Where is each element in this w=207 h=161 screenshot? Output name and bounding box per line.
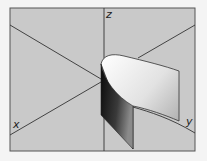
x-axis-label: x: [12, 118, 20, 131]
surface-diagram: z x y: [0, 0, 207, 161]
z-axis-label: z: [105, 8, 112, 21]
y-axis-label: y: [185, 115, 193, 128]
